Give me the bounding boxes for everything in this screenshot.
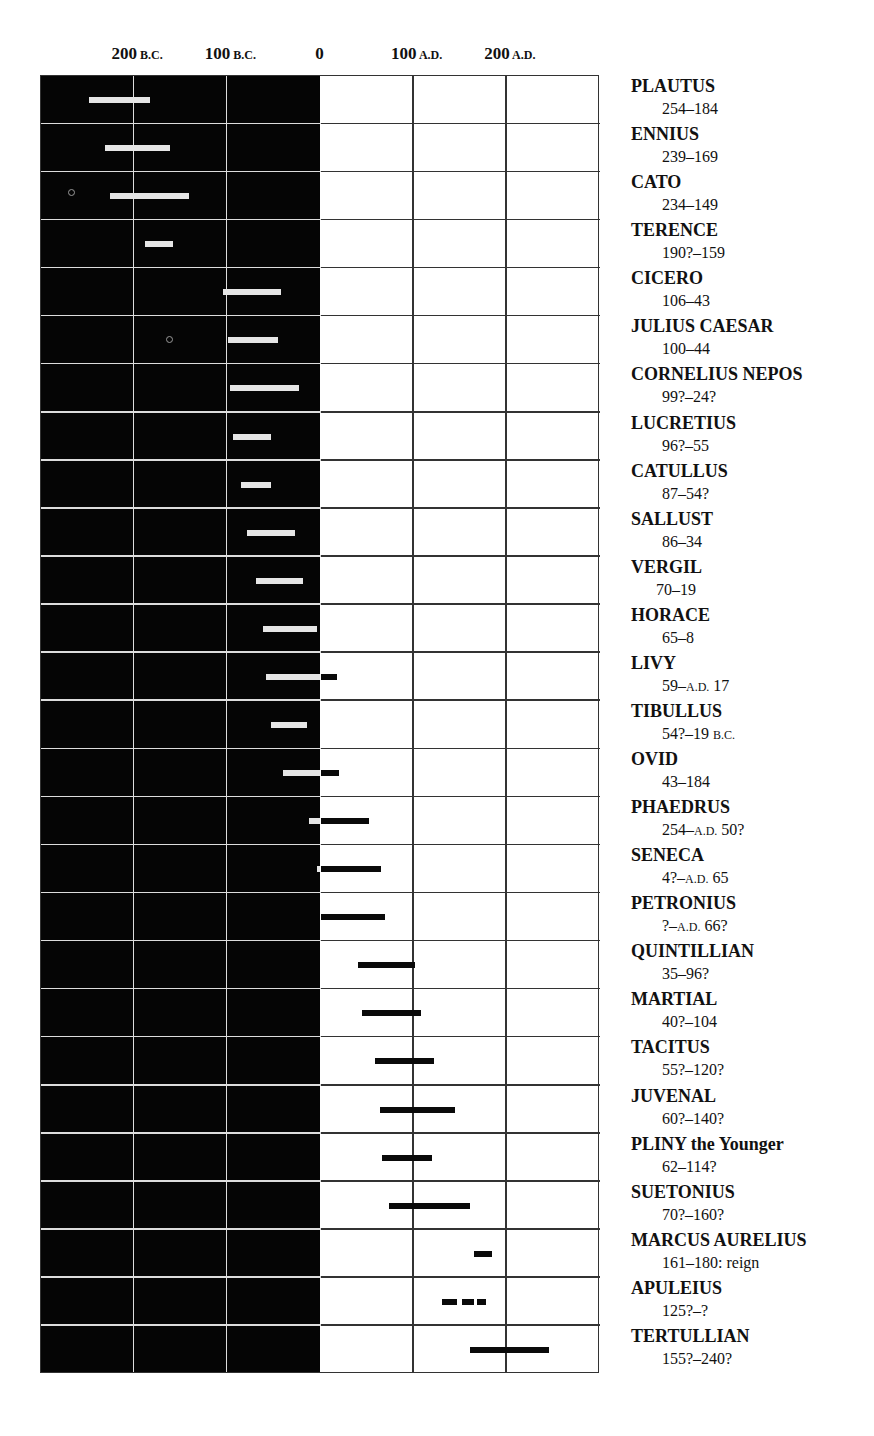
grid-hline bbox=[321, 1276, 601, 1278]
author-dates: 4?–A.D. 65 bbox=[662, 869, 728, 887]
author-dates: 70–19 bbox=[656, 581, 696, 599]
lifespan-bar bbox=[309, 818, 320, 824]
author-name: VERGIL bbox=[631, 557, 702, 578]
grid-hline bbox=[41, 459, 321, 461]
lifespan-bar bbox=[321, 866, 382, 872]
grid-hline bbox=[41, 940, 321, 942]
author-name: QUINTILLIAN bbox=[631, 941, 754, 962]
grid-hline bbox=[41, 1132, 321, 1134]
grid-hline bbox=[41, 892, 321, 894]
grid-hline bbox=[41, 699, 321, 701]
author-dates: 155?–240? bbox=[662, 1350, 732, 1368]
grid-hline bbox=[321, 699, 601, 701]
lifespan-bar bbox=[283, 770, 320, 776]
author-name: JULIUS CAESAR bbox=[631, 316, 774, 337]
author-name: PLAUTUS bbox=[631, 76, 715, 97]
grid-hline bbox=[321, 603, 601, 605]
grid-hline bbox=[41, 315, 321, 317]
lifespan-bar bbox=[470, 1347, 548, 1353]
lifespan-bar bbox=[442, 1299, 458, 1305]
grid-hline bbox=[41, 171, 321, 173]
author-entry: TERTULLIAN155?–240? bbox=[631, 1325, 871, 1373]
author-dates: 100–44 bbox=[662, 340, 710, 358]
grid-hline bbox=[321, 844, 601, 846]
grid-hline bbox=[321, 940, 601, 942]
lifespan-bar bbox=[362, 1010, 421, 1016]
author-name: CATULLUS bbox=[631, 461, 728, 482]
author-entry: LIVY59–A.D. 17 bbox=[631, 652, 871, 700]
lifespan-bar bbox=[321, 818, 369, 824]
author-name: TERTULLIAN bbox=[631, 1326, 749, 1347]
author-name: TIBULLUS bbox=[631, 701, 722, 722]
lifespan-bar bbox=[321, 770, 340, 776]
lifespan-bar bbox=[223, 289, 282, 295]
grid-hline bbox=[41, 219, 321, 221]
grid-hline bbox=[41, 507, 321, 509]
grid-vline bbox=[505, 76, 507, 1372]
author-entry: PHAEDRUS254–A.D. 50? bbox=[631, 796, 871, 844]
tick-era: B.C. bbox=[137, 48, 163, 62]
author-entry: HORACE65–8 bbox=[631, 604, 871, 652]
lifespan-bar bbox=[105, 145, 169, 151]
author-entry: JULIUS CAESAR100–44 bbox=[631, 315, 871, 363]
author-dates: 86–34 bbox=[662, 533, 702, 551]
grid-vline bbox=[226, 76, 228, 1372]
author-entry: MARTIAL40?–104 bbox=[631, 988, 871, 1036]
author-dates: 55?–120? bbox=[662, 1061, 724, 1079]
author-entry: TACITUS55?–120? bbox=[631, 1036, 871, 1084]
grid-hline bbox=[321, 411, 601, 413]
author-entry: SUETONIUS70?–160? bbox=[631, 1181, 871, 1229]
lifespan-bar bbox=[256, 578, 303, 584]
grid-hline bbox=[41, 411, 321, 413]
lifespan-bar bbox=[266, 674, 320, 680]
lifespan-bar bbox=[474, 1251, 492, 1257]
author-entry: OVID43–184 bbox=[631, 748, 871, 796]
lifespan-bar bbox=[89, 97, 150, 103]
author-entry: CATO234–149 bbox=[631, 171, 871, 219]
author-dates: 239–169 bbox=[662, 148, 718, 166]
author-entry: JUVENAL60?–140? bbox=[631, 1085, 871, 1133]
grid-hline bbox=[41, 123, 321, 125]
grid-hline bbox=[41, 651, 321, 653]
grid-hline bbox=[41, 555, 321, 557]
author-name: LIVY bbox=[631, 653, 676, 674]
grid-hline bbox=[321, 315, 601, 317]
author-name: CICERO bbox=[631, 268, 703, 289]
author-dates: 234–149 bbox=[662, 196, 718, 214]
author-name: ENNIUS bbox=[631, 124, 699, 145]
lifespan-bar bbox=[145, 241, 173, 247]
author-name: TACITUS bbox=[631, 1037, 710, 1058]
tick-era: B.C. bbox=[230, 48, 256, 62]
lifespan-bar bbox=[382, 1155, 432, 1161]
author-dates: 99?–24? bbox=[662, 388, 716, 406]
grid-hline bbox=[321, 507, 601, 509]
grid-hline bbox=[41, 1228, 321, 1230]
tick-number: 100 bbox=[205, 44, 231, 63]
lifespan-bar bbox=[389, 1203, 471, 1209]
lifespan-bar bbox=[358, 962, 415, 968]
author-name: PETRONIUS bbox=[631, 893, 736, 914]
grid-vline bbox=[412, 76, 414, 1372]
lifespan-bar bbox=[247, 530, 295, 536]
author-name: PLINY the Younger bbox=[631, 1134, 784, 1155]
author-dates: 96?–55 bbox=[662, 437, 709, 455]
grid-hline bbox=[41, 603, 321, 605]
author-dates: 54?–19 B.C. bbox=[662, 725, 735, 743]
tick-era: A.D. bbox=[417, 48, 443, 62]
author-dates: 254–A.D. 50? bbox=[662, 821, 744, 839]
author-name: SENECA bbox=[631, 845, 704, 866]
author-name: LUCRETIUS bbox=[631, 413, 736, 434]
author-name: OVID bbox=[631, 749, 678, 770]
axis-tick-label: 200 B.C. bbox=[112, 44, 163, 64]
grid-hline bbox=[321, 892, 601, 894]
grid-hline bbox=[321, 651, 601, 653]
author-entry: SENECA4?–A.D. 65 bbox=[631, 844, 871, 892]
grid-hline bbox=[41, 796, 321, 798]
author-entry: PLAUTUS254–184 bbox=[631, 75, 871, 123]
era-abbrev: B.C. bbox=[713, 728, 735, 742]
grid-hline bbox=[41, 748, 321, 750]
lifespan-bar bbox=[375, 1058, 434, 1064]
era-abbrev: A.D. bbox=[677, 920, 700, 934]
grid-hline bbox=[321, 171, 601, 173]
author-name: MARTIAL bbox=[631, 989, 717, 1010]
